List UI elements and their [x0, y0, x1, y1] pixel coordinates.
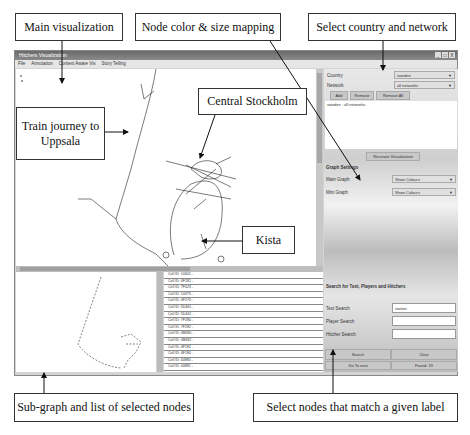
annotation-arrows	[0, 0, 470, 435]
callout-kista: Kista	[242, 226, 295, 254]
callout-main-visualization: Main visualization	[15, 13, 123, 41]
callout-select-nodes: Select nodes that match a given label	[253, 393, 458, 422]
callout-train-journey: Train journey to Uppsala	[16, 107, 105, 160]
callout-select-country: Select country and network	[308, 13, 456, 41]
callout-subgraph: Sub-graph and list of selected nodes	[14, 393, 194, 422]
callout-central-stockholm: Central Stockholm	[198, 88, 307, 115]
callout-node-mapping: Node color & size mapping	[135, 13, 281, 41]
